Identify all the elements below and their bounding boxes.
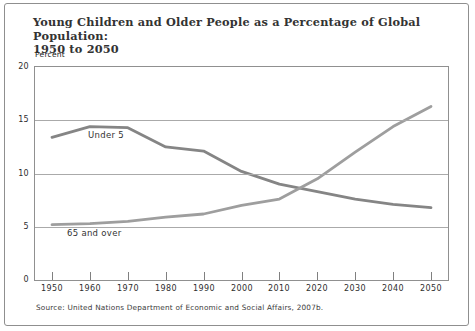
y-axis-unit-label: Percent [35, 50, 65, 59]
x-tick-label-2050: 2050 [414, 284, 448, 293]
series-label-65-and-over: 65 and over [67, 228, 121, 238]
x-tick-label-1980: 1980 [149, 284, 183, 293]
x-tick-label-1990: 1990 [187, 284, 221, 293]
series-line-65-and-over [52, 106, 431, 224]
y-tick-label-5: 5 [7, 221, 29, 232]
y-tick-label-15: 15 [7, 114, 29, 125]
plot-area [34, 66, 449, 281]
gridline-10 [35, 174, 448, 175]
x-tick-label-2000: 2000 [225, 284, 259, 293]
chart-title: Young Children and Older People as a Per… [33, 16, 453, 57]
x-tick-2020 [317, 272, 318, 280]
x-tick-2050 [431, 272, 432, 280]
y-tick-label-20: 20 [7, 61, 29, 72]
y-tick-label-10: 10 [7, 168, 29, 179]
x-tick-1980 [166, 272, 167, 280]
x-tick-label-2010: 2010 [262, 284, 296, 293]
x-tick-2040 [393, 272, 394, 280]
x-tick-label-2040: 2040 [376, 284, 410, 293]
y-tick-label-0: 0 [7, 274, 29, 285]
x-tick-label-1950: 1950 [35, 284, 69, 293]
series-label-under-5: Under 5 [88, 130, 124, 140]
x-tick-1960 [90, 272, 91, 280]
x-tick-label-2020: 2020 [300, 284, 334, 293]
x-tick-label-2030: 2030 [338, 284, 372, 293]
gridline-15 [35, 120, 448, 121]
x-tick-1970 [128, 272, 129, 280]
source-note: Source: United Nations Department of Eco… [36, 303, 456, 312]
x-tick-2000 [242, 272, 243, 280]
x-tick-label-1970: 1970 [111, 284, 145, 293]
x-tick-1950 [52, 272, 53, 280]
x-tick-2010 [279, 272, 280, 280]
x-tick-2030 [355, 272, 356, 280]
x-tick-label-1960: 1960 [73, 284, 107, 293]
figure-container: Young Children and Older People as a Per… [0, 0, 475, 331]
x-tick-1990 [204, 272, 205, 280]
